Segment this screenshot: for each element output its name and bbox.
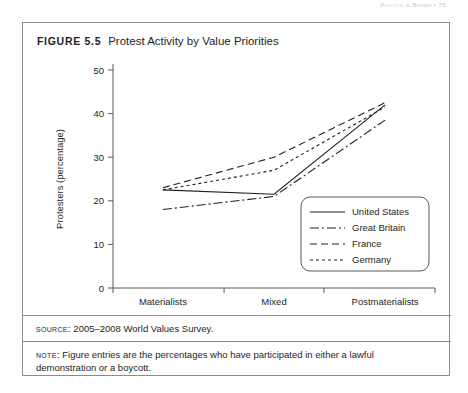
figure-title: Figure 5.5Protest Activity by Value Prio… xyxy=(37,31,279,49)
legend-label-great-britain: Great Britain xyxy=(352,222,405,233)
series-line-great-britain xyxy=(163,120,385,209)
source-text: 2005–2008 World Values Survey. xyxy=(73,323,213,334)
note-text: Figure entries are the percentages who h… xyxy=(36,349,374,373)
legend-label-germany: Germany xyxy=(352,254,391,265)
legend-label-france: France xyxy=(352,238,382,249)
x-tick-label: Postmaterialists xyxy=(352,296,419,307)
note-label: Note: xyxy=(36,349,60,360)
y-axis-title: Protesters (percentage) xyxy=(54,129,65,229)
figure-label: Figure 5.5 xyxy=(37,35,101,47)
y-tick-label: 0 xyxy=(99,283,104,294)
y-tick-label: 10 xyxy=(93,239,104,250)
figure-container: Figure 5.5Protest Activity by Value Prio… xyxy=(22,22,450,376)
chart-plot-area: 01020304050Protesters (percentage)Materi… xyxy=(23,57,451,307)
y-tick-label: 30 xyxy=(93,152,104,163)
running-head: Politics in Britain • 75 xyxy=(381,2,446,8)
y-tick-label: 20 xyxy=(93,195,104,206)
x-tick-label: Mixed xyxy=(261,296,286,307)
source-label: Source: xyxy=(36,323,71,334)
legend-label-united-states: United States xyxy=(352,206,409,217)
figure-note: Note: Figure entries are the percentages… xyxy=(36,348,436,374)
y-tick-label: 40 xyxy=(93,108,104,119)
y-tick-label: 50 xyxy=(93,65,104,76)
x-tick-label: Materialists xyxy=(139,296,187,307)
line-chart: 01020304050Protesters (percentage)Materi… xyxy=(23,57,451,307)
figure-source: Source: 2005–2008 World Values Survey. xyxy=(36,322,436,335)
figure-caption: Protest Activity by Value Priorities xyxy=(108,35,278,47)
divider-above-note xyxy=(23,341,451,342)
series-line-france xyxy=(163,103,385,188)
series-line-united-states xyxy=(163,105,385,194)
divider-above-source xyxy=(23,315,451,316)
